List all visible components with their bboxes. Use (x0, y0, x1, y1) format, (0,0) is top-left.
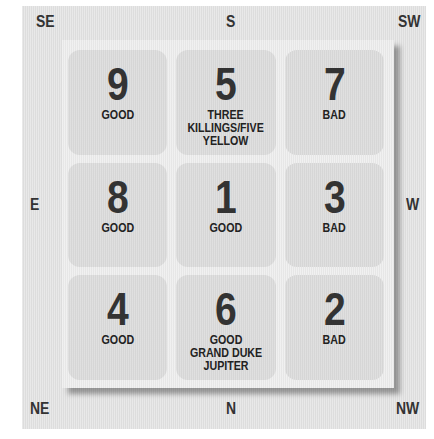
cell-nw: 2 BAD (285, 275, 384, 380)
direction-label-ne: NE (30, 399, 49, 419)
cell-w: 3 BAD (285, 163, 384, 268)
cell-sw: 7 BAD (285, 50, 384, 155)
star-number: 1 (215, 175, 237, 219)
direction-label-sw: SW (398, 12, 420, 32)
star-label: THREE KILLINGS/FIVE YELLOW (188, 108, 264, 147)
star-number: 2 (323, 287, 345, 331)
flying-star-board: 9 GOOD 5 THREE KILLINGS/FIVE YELLOW 7 BA… (62, 40, 394, 388)
star-grid: 9 GOOD 5 THREE KILLINGS/FIVE YELLOW 7 BA… (68, 50, 384, 380)
cell-s: 5 THREE KILLINGS/FIVE YELLOW (176, 50, 275, 155)
direction-label-e: E (30, 195, 39, 215)
direction-label-se: SE (36, 12, 55, 32)
star-label: GOOD (101, 221, 134, 234)
cell-n: 6 GOOD GRAND DUKE JUPITER (176, 275, 275, 380)
star-number: 8 (107, 175, 129, 219)
star-number: 5 (215, 62, 237, 106)
star-label: BAD (323, 108, 346, 121)
star-label: BAD (323, 333, 346, 346)
star-label: GOOD (101, 333, 134, 346)
direction-label-n: N (226, 399, 236, 419)
star-number: 7 (323, 62, 345, 106)
cell-ne: 4 GOOD (68, 275, 167, 380)
cell-se: 9 GOOD (68, 50, 167, 155)
cell-center: 1 GOOD (176, 163, 275, 268)
star-label: BAD (323, 221, 346, 234)
star-number: 6 (215, 287, 237, 331)
cell-e: 8 GOOD (68, 163, 167, 268)
direction-label-s: S (226, 12, 235, 32)
star-number: 9 (107, 62, 129, 106)
star-label: GOOD (210, 221, 243, 234)
star-number: 4 (107, 287, 129, 331)
star-label: GOOD GRAND DUKE JUPITER (190, 333, 262, 372)
direction-label-w: W (406, 195, 419, 215)
star-label: GOOD (101, 108, 134, 121)
star-number: 3 (323, 175, 345, 219)
direction-label-nw: NW (396, 399, 419, 419)
